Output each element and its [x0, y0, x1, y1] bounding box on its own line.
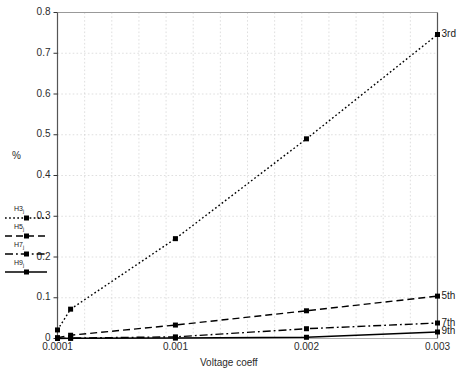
- data-point-marker: [173, 236, 178, 241]
- data-point-marker: [55, 327, 60, 332]
- y-tick-label: 0.6: [37, 88, 51, 99]
- y-tick-label: 0.7: [37, 47, 51, 58]
- legend-swatch-h3: [4, 214, 48, 222]
- legend-swatch-h5: [4, 232, 48, 240]
- data-point-marker: [68, 307, 73, 312]
- data-point-marker: [435, 321, 440, 326]
- data-point-marker: [304, 335, 309, 340]
- y-tick-label: 0.5: [37, 128, 51, 139]
- data-point-marker: [173, 336, 178, 341]
- chart-figure: % Voltage coeff 0.00010.0010.0020.00300.…: [0, 0, 465, 373]
- legend-entry-h9[interactable]: H9j: [4, 259, 52, 277]
- series-line-h3: [58, 35, 438, 330]
- y-tick-label: 0.1: [37, 291, 51, 302]
- data-point-marker: [304, 308, 309, 313]
- y-tick-label: 0.8: [37, 6, 51, 17]
- gridlines: [58, 13, 438, 339]
- legend-entry-h5[interactable]: H5j: [4, 223, 52, 241]
- x-tick-label: 0.002: [294, 341, 319, 352]
- legend-entry-h7[interactable]: H7j: [4, 241, 52, 259]
- data-point-marker: [435, 32, 440, 37]
- y-tick-label: 0.4: [37, 169, 51, 180]
- plot-area: [0, 0, 465, 373]
- y-tick-label: 0: [45, 332, 51, 343]
- series-end-label-9th: 9th: [442, 325, 456, 336]
- x-tick-label: 0.003: [425, 341, 450, 352]
- legend-swatch-h7: [4, 250, 48, 258]
- series-end-label-5th: 5th: [442, 290, 456, 301]
- data-point-marker: [304, 326, 309, 331]
- data-point-marker: [304, 136, 309, 141]
- data-point-marker: [173, 323, 178, 328]
- data-point-marker: [435, 294, 440, 299]
- legend: H3jH5jH7jH9j: [4, 205, 52, 277]
- legend-entry-h3[interactable]: H3j: [4, 205, 52, 223]
- x-tick-label: 0.001: [163, 341, 188, 352]
- data-point-marker: [435, 329, 440, 334]
- legend-swatch-h9: [4, 268, 48, 276]
- series-end-label-3rd: 3rd: [442, 28, 456, 39]
